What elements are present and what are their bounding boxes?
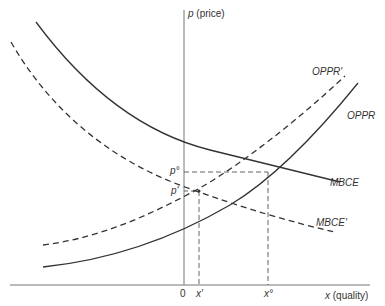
x-axis-text: (quality) (330, 290, 368, 301)
label-mbce: MBCE (330, 178, 359, 188)
label-mbce-prime: MBCE' (316, 218, 347, 228)
label-oppr-prime: OPPR' (312, 67, 342, 77)
tick-x1: x' (196, 289, 203, 299)
curve-oppr-prime (43, 76, 345, 245)
origin-label: 0 (180, 289, 186, 299)
tick-x0: x° (264, 289, 273, 299)
y-axis-label: p (price) (188, 9, 225, 19)
tick-p0: p° (170, 166, 180, 176)
label-oppr: OPPR (347, 111, 375, 121)
economics-diagram (0, 0, 385, 306)
tick-p1: p' (171, 186, 178, 196)
y-axis-text: (price) (194, 8, 225, 19)
point-x1-p1 (198, 190, 201, 193)
curve-mbce (36, 22, 340, 182)
x-axis-label: x (quality) (325, 291, 368, 301)
